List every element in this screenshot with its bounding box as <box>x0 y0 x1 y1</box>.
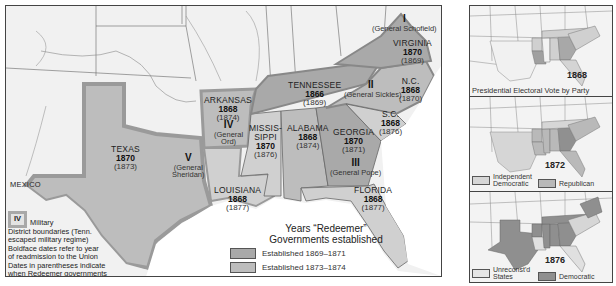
district-label-2: II (General Sickles) <box>344 80 402 98</box>
military-district-swatch: IV <box>8 211 27 228</box>
redeemer-year: (1876) <box>249 151 282 159</box>
redeemer-year: (1877) <box>354 204 392 212</box>
key-swatch <box>538 179 556 188</box>
key-label-line1: Independent <box>493 173 532 180</box>
redeemer-year: (1874) <box>287 142 329 150</box>
state-label-tennessee: TENNESSEE 1866 (1869) <box>288 81 341 107</box>
state-label-south-carolina: S.C. 1868 (1876) <box>379 110 402 136</box>
side-map-year: 1872 <box>545 160 565 170</box>
district-numeral: II <box>344 80 402 91</box>
key-unreconstructed-states: Unreconst'dStates <box>472 266 530 280</box>
legend-swatch <box>230 276 256 277</box>
legend-item: Established 1873–1874 <box>230 262 426 273</box>
redeemer-year: (1870) <box>399 95 422 103</box>
key-label: Democratic <box>559 273 594 280</box>
state-label-texas: TEXAS 1870 (1873) <box>111 145 140 171</box>
state-label-alabama: ALABAMA 1868 (1874) <box>287 124 329 150</box>
key-label-line1: Unreconst'd <box>493 266 530 273</box>
district-general: (General Sickles) <box>344 91 402 99</box>
legend-swatch <box>230 248 256 259</box>
district-label-5: V (General Sheridan) <box>172 153 205 179</box>
key-democratic: Democratic <box>538 272 594 281</box>
state-label-georgia: GEORGIA 1870 (1871) <box>333 128 374 154</box>
key-republican: Republican <box>538 179 594 188</box>
legend-swatch <box>230 262 256 273</box>
district-general: (General Schofield) <box>372 25 437 33</box>
district-general: (General Pope) <box>330 169 381 177</box>
side-map-1876: 1876 Unreconst'dStates Democratic <box>469 191 613 283</box>
note-line: when Redeemer governments <box>8 270 158 277</box>
legend-label: Established 1873–1874 <box>262 263 346 272</box>
legend-item: Established 1869–1871 <box>230 248 426 259</box>
district-numeral: I <box>372 14 437 25</box>
district-label-3: III (General Pope) <box>330 158 381 176</box>
state-label-north-carolina: N.C. 1868 (1870) <box>399 77 422 103</box>
side-map-1872: 1872 IndependentDemocratic Republican <box>469 96 613 193</box>
key-swatch <box>538 272 556 281</box>
redeemer-year: (1869) <box>393 57 432 65</box>
key-label: Unreconst'dStates <box>493 266 530 280</box>
district-general-line2: Ord) <box>214 138 243 146</box>
district-general-line2: Sheridan) <box>172 171 205 179</box>
key-label: IndependentDemocratic <box>493 173 532 187</box>
key-swatch <box>472 269 490 278</box>
redeemer-year: (1871) <box>333 146 374 154</box>
state-label-louisiana: LOUISIANA 1868 (1877) <box>214 186 261 212</box>
key-swatch <box>472 176 490 185</box>
state-label-florida: FLORIDA 1868 (1877) <box>354 186 392 212</box>
mexico-label: MEXICO <box>10 181 41 189</box>
legend-title-line2: Governments established <box>226 235 426 246</box>
side-map-1868: 1868 Presidential Electoral Vote by Part… <box>469 5 613 98</box>
state-label-virginia: VIRGINIA 1870 (1869) <box>393 39 432 65</box>
district-numeral: V <box>172 153 205 164</box>
state-label-mississippi: MISSIS- SIPPI 1870 (1876) <box>249 124 282 159</box>
key-label-line2: States <box>493 273 513 280</box>
district-numeral: IV <box>214 120 243 131</box>
military-district-key: IV Military <box>8 211 158 228</box>
redeemer-year: (1873) <box>111 163 140 171</box>
key-label-line2: Democratic <box>493 180 528 187</box>
main-map: TEXAS 1870 (1873) ARKANSAS 1868 (1874) L… <box>5 5 442 277</box>
legend-title: Years “Redeemer” <box>226 224 426 235</box>
redeemer-year: (1869) <box>288 99 341 107</box>
district-numeral: III <box>330 158 381 169</box>
electoral-vote-caption: Presidential Electoral Vote by Party <box>472 86 589 95</box>
district-label-1: I (General Schofield) <box>372 14 437 32</box>
map-notes: IV Military District boundaries (Tenn. e… <box>8 211 158 277</box>
redeemer-legend: Years “Redeemer” Governments established… <box>226 224 426 277</box>
legend-label: Established 1869–1871 <box>262 249 346 258</box>
side-map-shapes <box>470 6 612 97</box>
redeemer-year: (1877) <box>214 204 261 212</box>
key-independent-democratic: IndependentDemocratic <box>472 173 532 187</box>
side-map-year: 1868 <box>567 70 587 80</box>
legend-item: Established 1876–1877 <box>230 276 426 277</box>
redeemer-year: (1876) <box>379 128 402 136</box>
side-map-year: 1876 <box>545 255 565 265</box>
key-label: Republican <box>559 180 594 187</box>
district-label-4: IV (General Ord) <box>214 120 243 146</box>
